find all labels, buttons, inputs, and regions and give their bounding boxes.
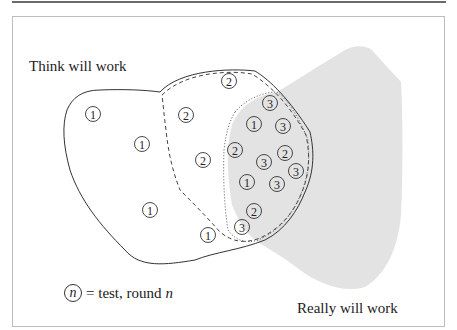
test-marker-round-2: 2 <box>179 108 194 123</box>
svg-text:3: 3 <box>280 120 286 134</box>
svg-text:3: 3 <box>274 178 280 192</box>
svg-text:1: 1 <box>139 138 145 152</box>
svg-text:2: 2 <box>251 205 257 219</box>
test-marker-round-1: 1 <box>201 228 216 243</box>
svg-text:2: 2 <box>200 154 206 168</box>
svg-text:2: 2 <box>183 109 189 123</box>
svg-text:2: 2 <box>232 144 238 158</box>
svg-text:3: 3 <box>261 156 267 170</box>
svg-text:3: 3 <box>293 165 299 179</box>
legend-var: n <box>166 285 174 302</box>
svg-text:1: 1 <box>90 108 96 122</box>
legend: n = test, round n <box>64 284 173 302</box>
svg-text:1: 1 <box>205 229 211 243</box>
svg-text:1: 1 <box>147 204 153 218</box>
think-will-work-label: Think will work <box>29 58 127 75</box>
legend-text: = test, round <box>86 285 162 302</box>
legend-circle-icon: n <box>64 284 82 302</box>
test-marker-round-1: 1 <box>143 203 158 218</box>
svg-text:1: 1 <box>244 176 250 190</box>
svg-text:3: 3 <box>239 221 245 235</box>
test-marker-round-1: 1 <box>86 107 101 122</box>
svg-text:2: 2 <box>226 75 232 89</box>
svg-text:3: 3 <box>267 97 273 111</box>
really-will-work-label: Really will work <box>297 300 398 317</box>
venn-diagram: 111111222222333333 <box>0 0 457 330</box>
test-marker-round-2: 2 <box>196 153 211 168</box>
really-will-work-region <box>228 46 403 289</box>
svg-text:1: 1 <box>251 118 257 132</box>
svg-text:2: 2 <box>282 147 288 161</box>
test-marker-round-1: 1 <box>135 137 150 152</box>
test-marker-round-2: 2 <box>222 74 237 89</box>
